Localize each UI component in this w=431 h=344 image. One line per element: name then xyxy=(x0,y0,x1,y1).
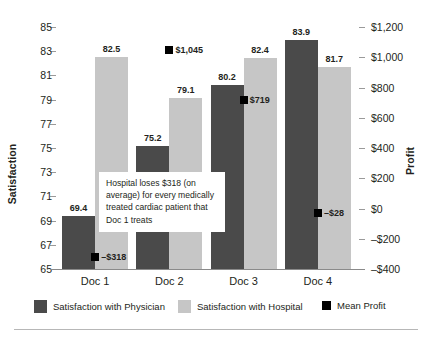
x-axis-baseline xyxy=(50,269,365,270)
y2-axis-tick-label: $400 xyxy=(371,143,394,154)
profit-marker xyxy=(91,253,99,261)
x-axis-category-label: Doc 2 xyxy=(132,275,206,287)
x-axis-category-label: Doc 1 xyxy=(58,275,132,287)
hospital-loss-callout: Hospital loses $318 (on average) for eve… xyxy=(99,172,225,232)
footer-divider xyxy=(14,329,418,330)
y2-axis-tick-label: –$200 xyxy=(371,234,400,245)
y-axis-tick-label: 79 xyxy=(40,95,52,106)
y2-axis-tick xyxy=(359,209,365,210)
profit-marker xyxy=(314,209,322,217)
profit-marker xyxy=(240,96,248,104)
x-axis-category-label: Doc 3 xyxy=(207,275,281,287)
plot-area: 69.482.5–$31875.279.1$1,04580.282.4$7198… xyxy=(58,27,355,269)
y2-axis-tick xyxy=(359,148,365,149)
profit-value-label: –$318 xyxy=(101,253,126,262)
profit-value-label: $719 xyxy=(250,96,270,105)
y2-axis-tick-label: $800 xyxy=(371,83,394,94)
legend-swatch-icon xyxy=(322,301,331,310)
bar-value-label-hospital: 82.5 xyxy=(89,45,134,54)
y-axis-tick-label: 83 xyxy=(40,46,52,57)
y2-axis-tick xyxy=(359,57,365,58)
bar-value-label-hospital: 82.4 xyxy=(238,46,283,55)
y2-axis-tick-label: $200 xyxy=(371,173,394,184)
y2-axis-tick-label: $1,200 xyxy=(371,22,403,33)
y-axis-tick-label: 67 xyxy=(40,240,52,251)
y-axis-tick-label: 85 xyxy=(40,22,52,33)
y-axis-title-satisfaction: Satisfaction xyxy=(6,124,18,224)
legend-label: Satisfaction with Hospital xyxy=(197,301,303,312)
y-axis-tick-label: 81 xyxy=(40,70,52,81)
y2-axis-tick-label: $1,000 xyxy=(371,52,403,63)
bar-value-label-hospital: 81.7 xyxy=(312,55,357,64)
y2-axis-tick xyxy=(359,118,365,119)
y-axis-tick-label: 77 xyxy=(40,119,52,130)
y2-axis-tick-label: $0 xyxy=(371,204,383,215)
y-axis-tick-label: 73 xyxy=(40,167,52,178)
bar-satisfaction-hospital xyxy=(318,67,351,269)
y2-axis-tick xyxy=(359,239,365,240)
y2-axis-title-profit: Profit xyxy=(404,126,416,196)
legend-item: Mean Profit xyxy=(320,300,386,311)
legend-item: Satisfaction with Hospital xyxy=(178,300,303,313)
y2-axis-tick xyxy=(359,88,365,89)
profit-value-label: –$28 xyxy=(324,209,344,218)
y2-axis-tick-label: –$400 xyxy=(371,264,400,275)
legend-item: Satisfaction with Physician xyxy=(34,300,165,313)
bar-satisfaction-physician xyxy=(285,40,318,269)
y-axis-tick-label: 69 xyxy=(40,216,52,227)
y2-axis-tick xyxy=(359,27,365,28)
y-axis-tick-label: 71 xyxy=(40,191,52,202)
legend-swatch-icon xyxy=(178,300,191,313)
profit-value-label: $1,045 xyxy=(175,46,203,55)
legend-swatch-icon xyxy=(34,300,47,313)
y2-axis-tick-label: $600 xyxy=(371,113,394,124)
bar-satisfaction-hospital xyxy=(95,57,128,269)
legend-label: Satisfaction with Physician xyxy=(53,301,165,312)
satisfaction-profit-chart: Satisfaction Profit 65676971737577798183… xyxy=(0,0,431,344)
bar-value-label-physician: 83.9 xyxy=(279,28,324,37)
y-axis-tick-label: 75 xyxy=(40,143,52,154)
bar-satisfaction-hospital xyxy=(244,58,277,269)
chart-legend: Satisfaction with PhysicianSatisfaction … xyxy=(0,300,431,316)
legend-label: Mean Profit xyxy=(337,300,386,311)
bar-value-label-hospital: 79.1 xyxy=(163,86,208,95)
bar-satisfaction-physician xyxy=(62,216,95,269)
x-axis-category-label: Doc 4 xyxy=(281,275,355,287)
profit-marker xyxy=(165,46,173,54)
y2-axis-tick xyxy=(359,178,365,179)
